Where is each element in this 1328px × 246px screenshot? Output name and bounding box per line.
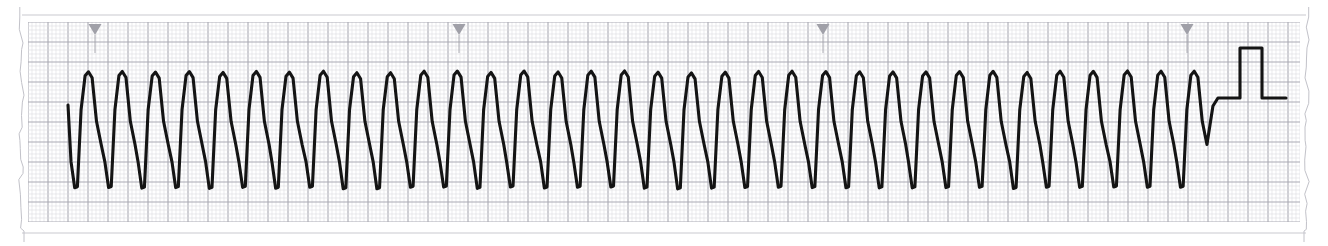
ecg-canvas (0, 0, 1328, 246)
ecg-rhythm-strip (0, 0, 1328, 246)
